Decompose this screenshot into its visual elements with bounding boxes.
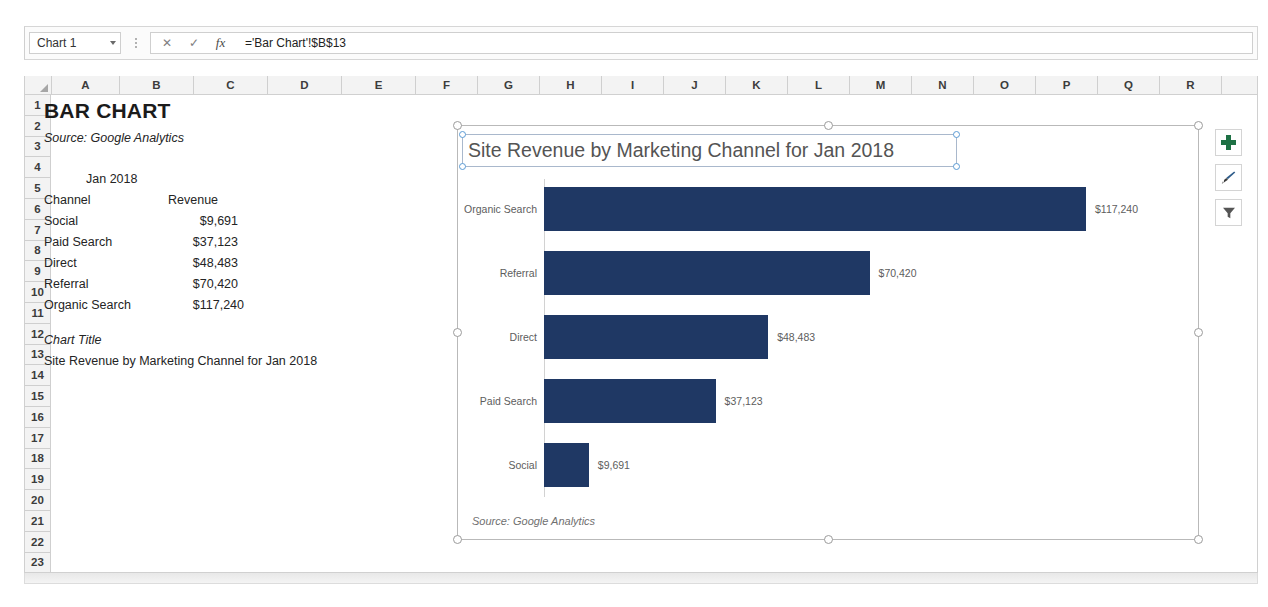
bar-row[interactable]: Referral$70,420: [544, 251, 917, 295]
chart-styles-button[interactable]: [1215, 164, 1242, 191]
table-row: $70,420: [146, 277, 238, 291]
chart-resize-handle-bottom-right[interactable]: [1194, 535, 1203, 544]
bar-data-label: $117,240: [1095, 203, 1138, 215]
row-header-19[interactable]: 19: [25, 469, 50, 490]
bar[interactable]: [544, 443, 589, 487]
column-header-O[interactable]: O: [974, 76, 1036, 94]
plot-area[interactable]: Organic Search$117,240Referral$70,420Dir…: [544, 179, 1192, 497]
row-header-20[interactable]: 20: [25, 490, 50, 511]
column-header-D[interactable]: D: [268, 76, 342, 94]
cancel-icon[interactable]: ✕: [153, 33, 180, 53]
row-header-16[interactable]: 16: [25, 407, 50, 428]
column-header-R[interactable]: R: [1160, 76, 1222, 94]
table-row: $48,483: [146, 256, 238, 270]
bar-data-label: $9,691: [598, 459, 630, 471]
bar-row[interactable]: Paid Search$37,123: [544, 379, 763, 423]
column-header-M[interactable]: M: [850, 76, 912, 94]
funnel-icon: [1221, 205, 1237, 221]
table-row: Paid Search: [44, 235, 112, 249]
chart-resize-handle-middle-left[interactable]: [453, 328, 462, 337]
chart-side-buttons: [1215, 129, 1242, 226]
column-header-B[interactable]: B: [120, 76, 194, 94]
name-box-value: Chart 1: [37, 36, 76, 50]
chart-source-note: Source: Google Analytics: [472, 515, 595, 527]
excel-window: Chart 1 ✕ ✓ fx ='Bar Chart'!$B$13 ABCDEF…: [0, 0, 1268, 607]
chart-elements-button[interactable]: [1215, 129, 1242, 156]
bar-row[interactable]: Social$9,691: [544, 443, 630, 487]
row-header-18[interactable]: 18: [25, 449, 50, 470]
formula-input[interactable]: ='Bar Chart'!$B$13: [236, 32, 1253, 54]
row-header-22[interactable]: 22: [25, 532, 50, 553]
column-header-Q[interactable]: Q: [1098, 76, 1160, 94]
column-header-N[interactable]: N: [912, 76, 974, 94]
bar-row[interactable]: Direct$48,483: [544, 315, 815, 359]
table-row: Direct: [44, 256, 77, 270]
table-row: $37,123: [146, 235, 238, 249]
column-header-K[interactable]: K: [726, 76, 788, 94]
select-all-icon: [40, 84, 48, 92]
category-label: Direct: [510, 331, 537, 343]
category-label: Organic Search: [464, 203, 537, 215]
chart-filters-button[interactable]: [1215, 199, 1242, 226]
row-header-14[interactable]: 14: [25, 365, 50, 386]
name-box[interactable]: Chart 1: [29, 32, 121, 54]
row-header-17[interactable]: 17: [25, 428, 50, 449]
chart-title-label: Chart Title: [44, 333, 102, 347]
chart-title-cell-value: Site Revenue by Marketing Channel for Ja…: [44, 354, 317, 368]
sheet-source: Source: Google Analytics: [44, 131, 184, 145]
title-resize-handle-bottom-left[interactable]: [459, 163, 466, 170]
row-header-21[interactable]: 21: [25, 511, 50, 532]
chart-title[interactable]: Site Revenue by Marketing Channel for Ja…: [462, 134, 957, 167]
bar[interactable]: [544, 187, 1086, 231]
bar-data-label: $70,420: [879, 267, 917, 279]
table-row: $9,691: [146, 214, 238, 228]
column-header-H[interactable]: H: [540, 76, 602, 94]
bar-data-label: $48,483: [777, 331, 815, 343]
bar[interactable]: [544, 251, 870, 295]
column-header-A[interactable]: A: [52, 76, 120, 94]
select-all-corner[interactable]: [25, 76, 52, 94]
category-label: Paid Search: [480, 395, 537, 407]
confirm-icon[interactable]: ✓: [180, 33, 207, 53]
chart-title-text: Site Revenue by Marketing Channel for Ja…: [468, 139, 894, 162]
row-header-4[interactable]: 4: [25, 157, 50, 178]
bar-data-label: $37,123: [725, 395, 763, 407]
bar-row[interactable]: Organic Search$117,240: [544, 187, 1138, 231]
chart-resize-handle-top-left[interactable]: [453, 121, 462, 130]
title-resize-handle-top-right[interactable]: [953, 131, 960, 138]
row-header-15[interactable]: 15: [25, 386, 50, 407]
plus-icon: [1221, 135, 1236, 150]
table-header-revenue: Revenue: [168, 193, 218, 207]
bar[interactable]: [544, 379, 716, 423]
category-label: Referral: [500, 267, 537, 279]
chevron-down-icon[interactable]: [110, 41, 116, 45]
category-label: Social: [508, 459, 537, 471]
row-header-23[interactable]: 23: [25, 553, 50, 573]
title-resize-handle-top-left[interactable]: [459, 131, 466, 138]
chart-resize-handle-bottom-center[interactable]: [824, 535, 833, 544]
bar[interactable]: [544, 315, 768, 359]
column-header-L[interactable]: L: [788, 76, 850, 94]
chart-object[interactable]: Site Revenue by Marketing Channel for Ja…: [457, 125, 1199, 540]
column-header-E[interactable]: E: [342, 76, 416, 94]
column-header-C[interactable]: C: [194, 76, 268, 94]
column-headers: ABCDEFGHIJKLMNOPQR: [24, 76, 1258, 95]
column-header-J[interactable]: J: [664, 76, 726, 94]
more-options-icon[interactable]: [128, 38, 144, 48]
table-row: Social: [44, 214, 78, 228]
column-header-P[interactable]: P: [1036, 76, 1098, 94]
insert-function-icon[interactable]: fx: [207, 33, 234, 53]
horizontal-scrollbar[interactable]: [24, 573, 1258, 584]
sheet-title: BAR CHART: [44, 99, 171, 123]
chart-resize-handle-top-right[interactable]: [1194, 121, 1203, 130]
table-row: Referral: [44, 277, 88, 291]
chart-resize-handle-middle-right[interactable]: [1194, 328, 1203, 337]
chart-resize-handle-top-center[interactable]: [824, 121, 833, 130]
table-row: $117,240: [152, 298, 244, 312]
column-header-F[interactable]: F: [416, 76, 478, 94]
title-resize-handle-bottom-right[interactable]: [953, 163, 960, 170]
column-header-I[interactable]: I: [602, 76, 664, 94]
chart-resize-handle-bottom-left[interactable]: [453, 535, 462, 544]
paintbrush-icon: [1220, 169, 1237, 186]
column-header-G[interactable]: G: [478, 76, 540, 94]
